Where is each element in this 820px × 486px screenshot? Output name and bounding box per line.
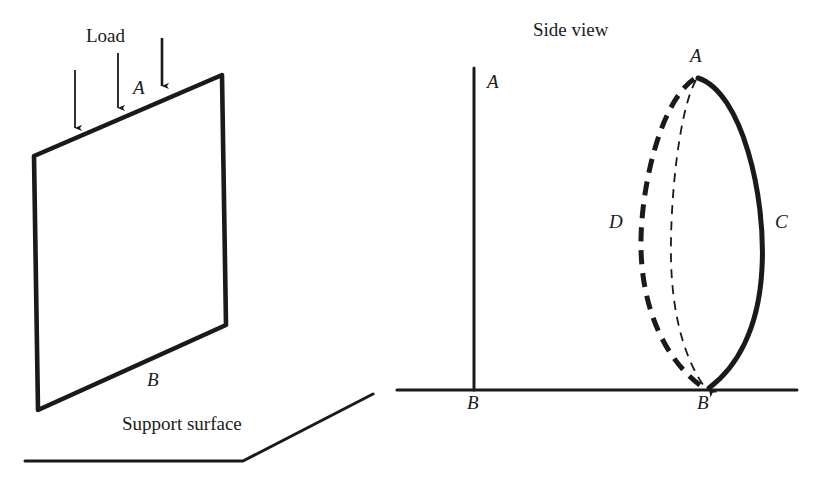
buckled-curve-d: [641, 79, 704, 388]
load-label: Load: [86, 26, 125, 45]
plate-top-edge-label-a: A: [133, 78, 145, 97]
buckled-member-label-a: A: [690, 46, 702, 65]
straight-member-label-b: B: [467, 393, 479, 412]
buckled-curve-center: [671, 80, 706, 389]
straight-member-label-a: A: [487, 72, 499, 91]
side-view-title: Side view: [533, 20, 608, 39]
buckling-figure: Load A B Support surface Side view A B A…: [0, 0, 820, 486]
buckled-member-label-b: B: [697, 393, 709, 412]
plate-outline: [34, 75, 226, 410]
plate-bottom-edge-label-b: B: [147, 370, 159, 389]
buckled-curve-label-d: D: [609, 212, 623, 231]
buckled-curve-c: [698, 78, 762, 388]
support-surface-label: Support surface: [122, 414, 242, 433]
buckled-curve-label-c: C: [775, 212, 788, 231]
